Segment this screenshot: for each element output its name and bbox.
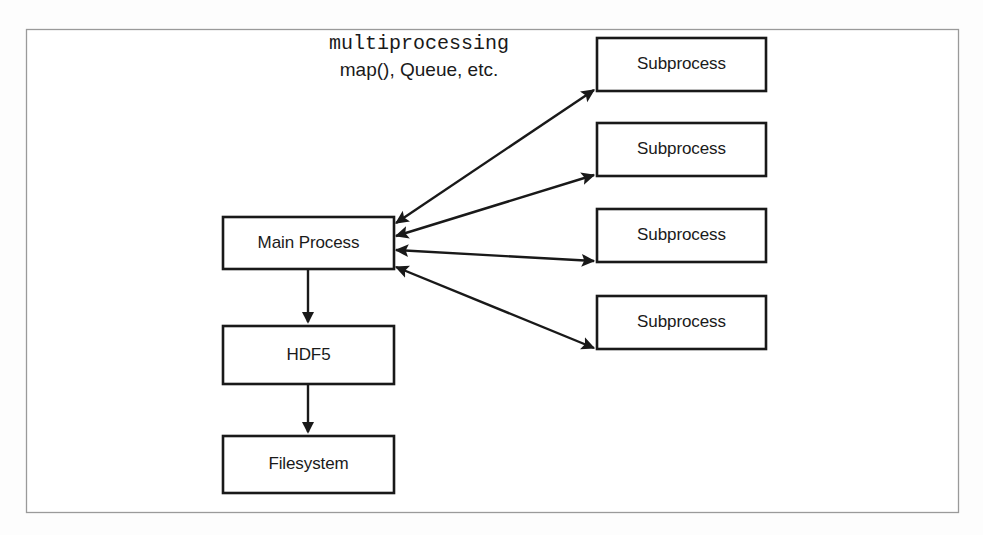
- annotation-line-1: multiprocessing: [329, 32, 509, 55]
- figure-root: multiprocessing map(), Queue, etc. Main …: [0, 0, 983, 535]
- node-subprocess-1-label: Subprocess: [637, 54, 726, 73]
- node-hdf5[interactable]: HDF5: [223, 326, 394, 384]
- annotation-line-2: map(), Queue, etc.: [340, 59, 498, 80]
- node-filesystem-label: Filesystem: [268, 454, 348, 473]
- node-subprocess-3[interactable]: Subprocess: [597, 209, 766, 262]
- diagram-canvas: multiprocessing map(), Queue, etc. Main …: [0, 0, 983, 535]
- figure-border: [27, 30, 959, 513]
- node-subprocess-2[interactable]: Subprocess: [597, 123, 766, 176]
- node-subprocess-2-label: Subprocess: [637, 139, 726, 158]
- node-hdf5-label: HDF5: [287, 345, 331, 364]
- node-subprocess-1[interactable]: Subprocess: [597, 38, 766, 91]
- node-subprocess-3-label: Subprocess: [637, 225, 726, 244]
- node-subprocess-4-label: Subprocess: [637, 312, 726, 331]
- node-main-process[interactable]: Main Process: [223, 217, 394, 269]
- node-main-process-label: Main Process: [258, 233, 360, 252]
- node-filesystem[interactable]: Filesystem: [223, 436, 394, 493]
- node-subprocess-4[interactable]: Subprocess: [597, 296, 766, 349]
